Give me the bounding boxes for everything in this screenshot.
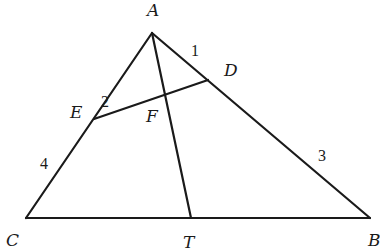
length-label-ae: 2 — [101, 93, 109, 110]
length-label-ad: 1 — [191, 42, 199, 59]
length-label-db: 3 — [318, 147, 326, 164]
label-a: A — [145, 0, 159, 20]
label-d: D — [223, 60, 238, 80]
length-label-ec: 4 — [40, 155, 48, 172]
label-c: C — [6, 230, 19, 250]
label-e: E — [69, 102, 83, 122]
segment-ac — [26, 33, 152, 218]
length-labels: 1 2 4 3 — [40, 42, 326, 172]
point-labels: A B C D E F T — [6, 0, 380, 252]
label-b: B — [367, 230, 380, 250]
label-t: T — [183, 232, 196, 252]
triangle-diagram: A B C D E F T 1 2 4 3 — [0, 0, 380, 252]
label-f: F — [145, 106, 159, 126]
segments — [26, 33, 370, 218]
